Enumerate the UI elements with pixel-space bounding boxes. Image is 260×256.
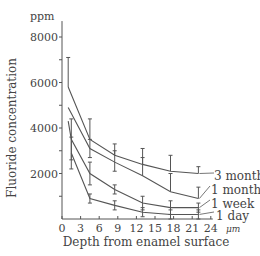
- y-tick-label: 8000: [30, 31, 58, 44]
- x-tick-label: 21: [185, 222, 199, 235]
- x-unit-label: μm: [226, 224, 240, 234]
- series-line: [68, 87, 198, 173]
- chart-svg: 200040006000800003691215182124 ppm Fluor…: [0, 0, 260, 256]
- x-axis-title: Depth from enamel surface: [63, 235, 230, 249]
- series-label-1-month: 1 month: [211, 183, 260, 197]
- label-leader: [199, 212, 214, 214]
- series-label-3-months: 3 months: [214, 169, 260, 183]
- x-tick-label: 24: [204, 222, 218, 235]
- y-unit-label: ppm: [30, 10, 55, 23]
- fluoride-depth-chart: 200040006000800003691215182124 ppm Fluor…: [0, 0, 260, 256]
- x-tick-label: 0: [59, 222, 66, 235]
- x-tick-label: 6: [96, 222, 103, 235]
- y-tick-label: 6000: [30, 77, 58, 90]
- x-tick-label: 12: [129, 222, 143, 235]
- series-3-months: [66, 57, 214, 173]
- y-axis-title: Fluoride concentration: [5, 58, 19, 198]
- series-line: [68, 108, 198, 199]
- x-tick-label: 15: [148, 222, 162, 235]
- label-leader: [199, 200, 210, 208]
- axes: 200040006000800003691215182124: [30, 21, 218, 235]
- x-tick-label: 18: [167, 222, 181, 235]
- curves: [66, 57, 214, 219]
- x-tick-label: 9: [114, 222, 121, 235]
- y-tick-label: 4000: [30, 122, 58, 135]
- label-leader: [199, 186, 210, 199]
- series-label-1-day: 1 day: [216, 209, 249, 223]
- x-tick-label: 3: [77, 222, 84, 235]
- y-tick-label: 2000: [30, 168, 58, 181]
- label-leader: [199, 173, 214, 174]
